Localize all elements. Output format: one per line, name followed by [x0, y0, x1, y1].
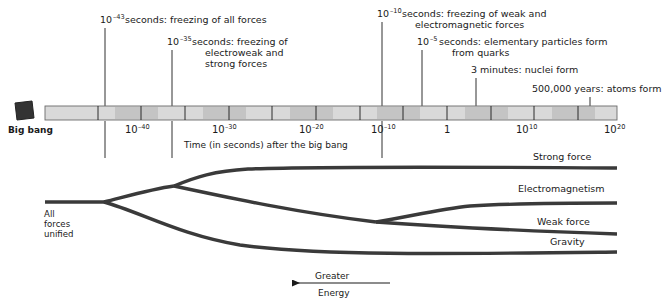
tick-label-0: 10 –40: [125, 123, 150, 136]
event-2-label-line-0: seconds: freezing of weak and: [402, 8, 547, 19]
tick-label-4: 1: [444, 124, 450, 135]
tick-label-6-exponent: 20: [617, 123, 625, 131]
force-label-gravity: Gravity: [550, 236, 585, 247]
event-2-time-base: 10: [377, 8, 389, 19]
tick-label-6: 10 20: [604, 123, 625, 136]
event-0-time-exponent: –43: [113, 13, 125, 21]
event-3-time-base: 10: [417, 36, 429, 47]
event-annotation-5: 500,000 years: atoms form: [532, 83, 661, 106]
event-5-label: 500,000 years: atoms form: [532, 83, 661, 94]
tick-label-2-base: 10: [299, 124, 312, 135]
event-3-time-exponent: –5: [430, 35, 438, 43]
event-4-label: 3 minutes: nuclei form: [471, 64, 578, 75]
event-3-label-line-1: from quarks: [452, 47, 509, 58]
axis-caption: Time (in seconds) after the big bang: [183, 140, 348, 150]
event-annotation-group: 10 –43 seconds: freezing of all forces 1…: [100, 7, 661, 159]
event-annotation-2: 10 –10 seconds: freezing of weak and ele…: [377, 7, 547, 159]
big-bang-icon: [15, 101, 34, 120]
event-0-label-line-0: seconds: freezing of all forces: [125, 14, 267, 25]
unified-label-line-2: unified: [44, 229, 73, 239]
event-1-time-base: 10: [167, 36, 179, 47]
tick-label-1: 10 –30: [212, 123, 237, 136]
event-1-label-line-2: strong forces: [205, 58, 267, 69]
timeline-bar-segment-shade-4: [377, 107, 420, 119]
branch-gravity: [104, 202, 617, 254]
force-branch-tree: [45, 167, 617, 254]
timeline-bar-segment-shade-5: [465, 107, 508, 119]
tick-label-5-base: 10: [516, 124, 529, 135]
tick-label-1-base: 10: [212, 124, 225, 135]
tick-label-5: 10 10: [516, 123, 537, 136]
energy-arrow-bottom-label: Energy: [318, 288, 350, 298]
event-2-label-line-1: electromagnetic forces: [415, 19, 524, 30]
timeline-bar-segment-shade-1: [115, 107, 158, 119]
energy-arrow-top-label: Greater: [315, 271, 350, 281]
figure-root: 10 –43 seconds: freezing of all forces 1…: [0, 0, 664, 302]
tick-label-1-exponent: –30: [225, 123, 237, 131]
energy-arrow-group: Greater Energy: [292, 271, 390, 298]
timeline-bar-segment-shade-2: [203, 107, 246, 119]
tick-label-6-base: 10: [604, 124, 617, 135]
tick-label-group: 10 –40 10 –30 10 –20 10 –10 1 10 10: [125, 123, 625, 136]
timeline-bar-segment-shade-6: [552, 107, 595, 119]
tick-label-2: 10 –20: [299, 123, 324, 136]
timeline-bar-segment-shade-3: [290, 107, 333, 119]
force-label-weak-force: Weak force: [537, 216, 590, 227]
unified-label-line-0: All: [44, 209, 55, 219]
tick-label-3-exponent: –10: [384, 123, 396, 131]
all-forces-unified-label: All forces unified: [44, 209, 73, 239]
event-1-label-line-0: seconds: freezing of: [192, 36, 288, 47]
tick-label-4-base: 1: [444, 124, 450, 135]
event-0-time-base: 10: [100, 14, 112, 25]
branch-electroweak-strong-trunk: [104, 186, 174, 202]
unified-label-line-1: forces: [44, 219, 71, 229]
event-1-time-exponent: –35: [180, 35, 192, 43]
big-bang-label: Big bang: [8, 125, 53, 135]
timeline-bar-group: [45, 106, 617, 120]
force-label-electromagnetism: Electromagnetism: [518, 183, 604, 194]
tick-label-3: 10 –10: [371, 123, 396, 136]
branch-electroweak-trunk: [174, 186, 376, 222]
tick-label-5-exponent: 10: [529, 123, 537, 131]
event-3-label-line-0: seconds: elementary particles form: [439, 36, 608, 47]
event-2-time-exponent: –10: [390, 7, 402, 15]
tick-label-0-base: 10: [125, 124, 138, 135]
tick-label-3-base: 10: [371, 124, 384, 135]
universe-timeline-diagram: 10 –43 seconds: freezing of all forces 1…: [0, 0, 664, 302]
force-label-strong-force: Strong force: [533, 151, 591, 162]
tick-label-2-exponent: –20: [312, 123, 324, 131]
tick-label-0-exponent: –40: [138, 123, 150, 131]
event-1-label-line-1: electroweak and: [205, 47, 284, 58]
